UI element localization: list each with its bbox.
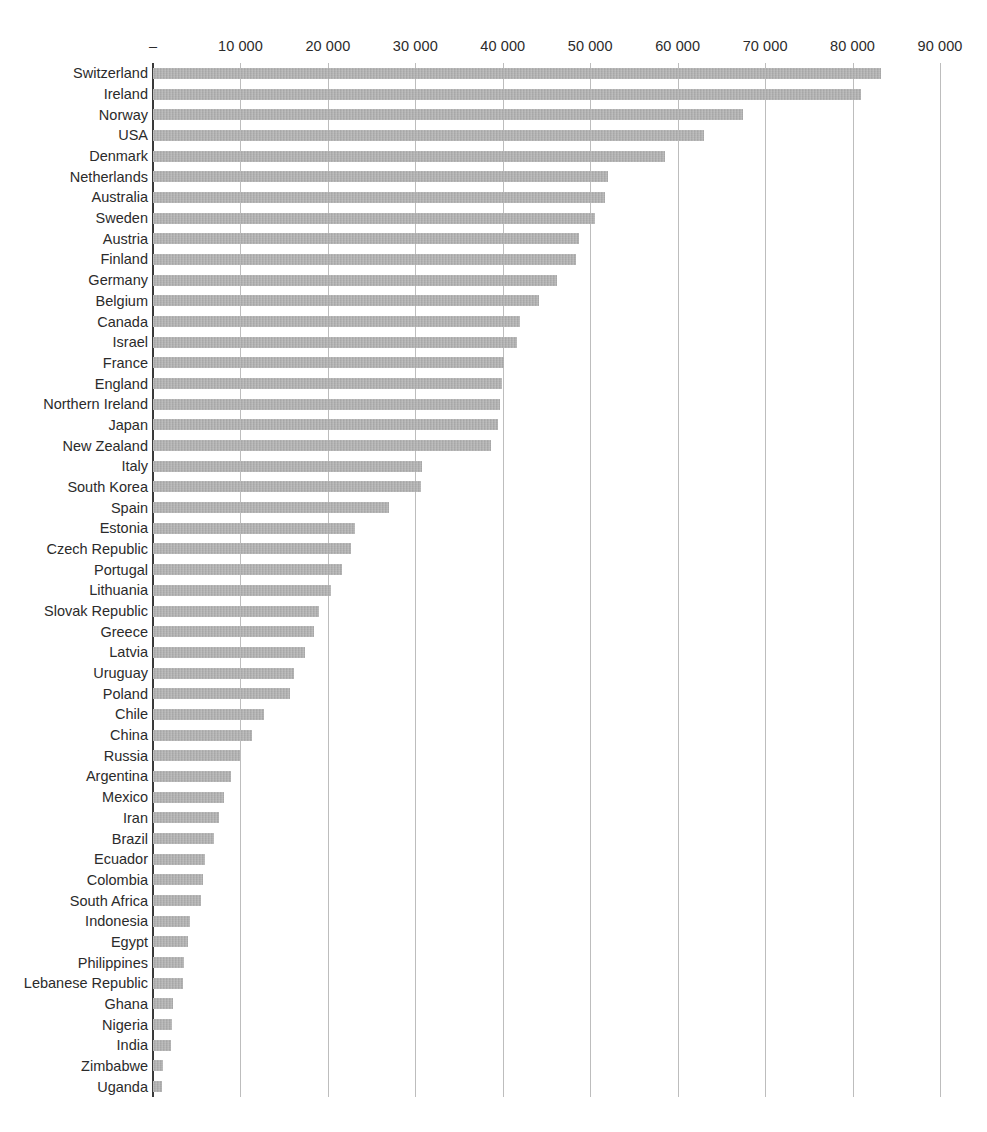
- category-label: Spain: [111, 501, 148, 515]
- category-label: South Korea: [67, 480, 148, 494]
- category-label: Norway: [99, 108, 148, 122]
- bar: [153, 543, 351, 554]
- bar: [153, 502, 389, 513]
- category-label: Sweden: [96, 211, 148, 225]
- bar: [153, 812, 219, 823]
- bar: [153, 564, 342, 575]
- bar: [153, 254, 576, 265]
- category-label: Philippines: [78, 956, 148, 970]
- category-label: Belgium: [96, 294, 148, 308]
- gridline-80000: [853, 63, 854, 1097]
- bar: [153, 606, 319, 617]
- bar: [153, 523, 355, 534]
- bar: [153, 957, 184, 968]
- bar: [153, 916, 190, 927]
- category-label: Uganda: [97, 1080, 148, 1094]
- bar: [153, 709, 264, 720]
- bar: [153, 295, 539, 306]
- bar: [153, 626, 314, 637]
- bar: [153, 213, 595, 224]
- category-label: Argentina: [86, 769, 148, 783]
- category-label: Greece: [100, 625, 148, 639]
- bar: [153, 89, 861, 100]
- category-label: Israel: [113, 335, 148, 349]
- category-label: Finland: [100, 252, 148, 266]
- category-label: India: [117, 1038, 148, 1052]
- bar: [153, 1040, 171, 1051]
- category-label: Iran: [123, 811, 148, 825]
- category-label: Colombia: [87, 873, 148, 887]
- bar: [153, 1019, 172, 1030]
- category-label: Uruguay: [93, 666, 148, 680]
- bar: [153, 109, 743, 120]
- bar: [153, 750, 240, 761]
- category-label: Northern Ireland: [43, 397, 148, 411]
- bar: [153, 440, 491, 451]
- x-tick-label-0: –: [149, 38, 157, 54]
- category-label: Ireland: [104, 87, 148, 101]
- category-label: Lebanese Republic: [24, 976, 148, 990]
- category-label: Estonia: [100, 521, 148, 535]
- category-label: Austria: [103, 232, 148, 246]
- plot-area: [153, 63, 940, 1097]
- bar: [153, 647, 305, 658]
- category-label: Netherlands: [70, 170, 148, 184]
- category-label: China: [110, 728, 148, 742]
- category-label: Zimbabwe: [81, 1059, 148, 1073]
- bar: [153, 668, 294, 679]
- bar: [153, 275, 557, 286]
- category-label: USA: [118, 128, 148, 142]
- category-label: Ecuador: [94, 852, 148, 866]
- x-tick-label-90000: 90 000: [918, 38, 963, 54]
- category-label: Russia: [104, 749, 148, 763]
- bar: [153, 68, 881, 79]
- category-label: Indonesia: [85, 914, 148, 928]
- category-label: France: [103, 356, 148, 370]
- category-label: Latvia: [109, 645, 148, 659]
- bar: [153, 130, 704, 141]
- gridline-60000: [678, 63, 679, 1097]
- bar: [153, 192, 605, 203]
- bar: [153, 171, 608, 182]
- bar: [153, 874, 203, 885]
- bar: [153, 337, 517, 348]
- bar: [153, 978, 183, 989]
- bar: [153, 399, 500, 410]
- x-tick-label-20000: 20 000: [305, 38, 350, 54]
- x-tick-label-10000: 10 000: [218, 38, 263, 54]
- category-label: New Zealand: [63, 439, 148, 453]
- category-label: Poland: [103, 687, 148, 701]
- bar: [153, 316, 520, 327]
- bar: [153, 854, 205, 865]
- bar: [153, 461, 422, 472]
- category-label: Lithuania: [89, 583, 148, 597]
- category-label: Canada: [97, 315, 148, 329]
- bar: [153, 771, 231, 782]
- bar: [153, 1060, 163, 1071]
- gridline-70000: [765, 63, 766, 1097]
- category-label: Brazil: [112, 832, 148, 846]
- category-label: Chile: [115, 707, 148, 721]
- bar: [153, 792, 224, 803]
- gridline-90000: [940, 63, 941, 1097]
- category-label: Germany: [88, 273, 148, 287]
- category-label: Switzerland: [73, 66, 148, 80]
- bar-chart: –10 00020 00030 00040 00050 00060 00070 …: [0, 0, 987, 1132]
- bar: [153, 998, 173, 1009]
- bar: [153, 233, 579, 244]
- bar: [153, 357, 504, 368]
- x-tick-label-70000: 70 000: [743, 38, 788, 54]
- category-label: Australia: [92, 190, 148, 204]
- category-label: South Africa: [70, 894, 148, 908]
- category-label: Italy: [121, 459, 148, 473]
- x-tick-label-50000: 50 000: [568, 38, 613, 54]
- bar: [153, 936, 188, 947]
- category-label: Nigeria: [102, 1018, 148, 1032]
- category-label: Japan: [108, 418, 148, 432]
- bar: [153, 895, 201, 906]
- category-label: Mexico: [102, 790, 148, 804]
- y-axis-category-labels: SwitzerlandIrelandNorwayUSADenmarkNether…: [0, 63, 148, 1097]
- bar: [153, 378, 502, 389]
- bar: [153, 585, 331, 596]
- category-label: Ghana: [104, 997, 148, 1011]
